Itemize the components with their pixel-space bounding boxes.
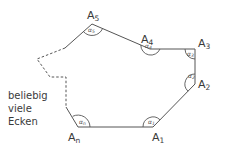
angle-label-alpha2: α2	[188, 72, 195, 80]
note-line-1: beliebig	[8, 89, 48, 102]
note-line-3: Ecken	[8, 115, 48, 128]
vertex-label-an: An	[68, 131, 81, 145]
vertex-label-a1: A1	[152, 131, 165, 145]
angle-label-alpha1: α1	[148, 118, 155, 126]
vertex-label-a5: A5	[87, 9, 100, 23]
angle-labels: α5 α4 α3 α2 α1 αn	[79, 26, 195, 126]
angle-label-alpha3: α3	[187, 50, 194, 58]
vertex-label-a4: A4	[141, 33, 154, 47]
vertex-label-a3: A3	[198, 37, 211, 51]
polygon-solid-edges	[65, 24, 195, 127]
angle-label-alpha5: α5	[88, 26, 95, 34]
angle-label-alphan: αn	[79, 118, 86, 126]
note-line-2: viele	[8, 102, 48, 115]
vertex-label-a2: A2	[198, 78, 211, 92]
arbitrary-corners-note: beliebig viele Ecken	[8, 89, 48, 128]
angle-arcs	[73, 29, 195, 128]
